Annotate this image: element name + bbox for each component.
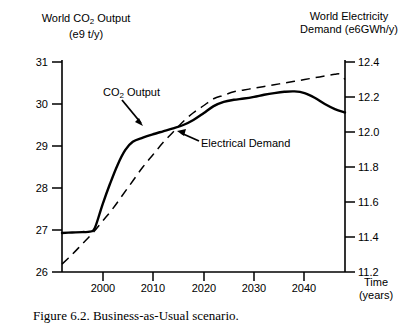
right-axis-ticks [345,62,355,272]
series-line-electrical-demand [62,74,345,264]
left-axis-ticks [52,62,62,272]
co2-annotation-arrow [122,100,143,126]
x-axis-ticks [103,272,304,281]
chart-canvas [0,0,416,334]
figure-container: World CO2 Output (e9 t/y) World Electric… [0,0,416,334]
electrical-annotation-arrow [177,129,199,141]
series-line-co2-output [62,91,345,233]
